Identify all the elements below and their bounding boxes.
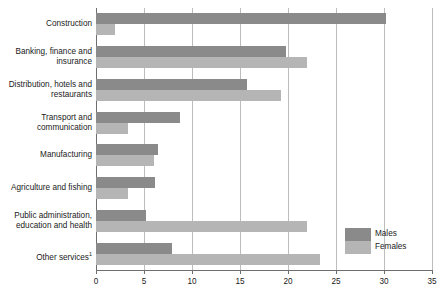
x-axis-line [96, 270, 433, 271]
gridline [432, 8, 433, 270]
category-label: Other services1 [0, 249, 92, 263]
category-label-line: communication [0, 123, 92, 133]
bar-chart: 05101520253035 ConstructionBanking, fina… [0, 0, 441, 297]
footnote-marker: 1 [89, 251, 92, 257]
category-label-line: insurance [0, 57, 92, 67]
x-tick-mark [288, 270, 289, 274]
bar-males [96, 144, 158, 155]
category-label: Distribution, hotels andrestaurants [0, 80, 92, 100]
x-tick-label: 10 [187, 277, 196, 286]
x-tick-label: 20 [283, 277, 292, 286]
legend-label-females: Females [375, 242, 406, 251]
category-label: Public administration,education and heal… [0, 211, 92, 231]
x-tick-mark [384, 270, 385, 274]
x-tick-label: 35 [427, 277, 436, 286]
bar-females [96, 221, 307, 232]
legend-label-males: Males [375, 229, 397, 238]
bar-males [96, 177, 155, 188]
category-label-line: Transport and [0, 113, 92, 123]
x-tick-mark [432, 270, 433, 274]
bar-males [96, 112, 180, 123]
x-tick-mark [240, 270, 241, 274]
x-tick-mark [144, 270, 145, 274]
x-tick-label: 5 [142, 277, 147, 286]
bar-females [96, 254, 320, 265]
bar-females [96, 188, 128, 199]
bar-females [96, 123, 128, 134]
bar-males [96, 79, 247, 90]
x-tick-label: 15 [235, 277, 244, 286]
category-label-line: Agriculture and fishing [0, 183, 92, 193]
bar-males [96, 13, 386, 24]
category-label: Manufacturing [0, 150, 92, 160]
x-tick-mark [96, 270, 97, 274]
bar-males [96, 46, 286, 57]
x-tick-mark [336, 270, 337, 274]
category-label-line: Public administration, [0, 211, 92, 221]
legend-swatch-females-icon [345, 241, 371, 254]
x-tick-mark [192, 270, 193, 274]
category-label: Construction [0, 19, 92, 29]
category-label-line: Distribution, hotels and [0, 80, 92, 90]
category-label: Transport andcommunication [0, 113, 92, 133]
bar-females [96, 90, 281, 101]
x-tick-label: 0 [94, 277, 99, 286]
gridline [336, 8, 337, 270]
category-label: Agriculture and fishing [0, 183, 92, 193]
bar-females [96, 24, 115, 35]
bar-females [96, 155, 154, 166]
category-label-line: restaurants [0, 90, 92, 100]
category-label-line: Other services1 [0, 249, 92, 263]
category-label-line: education and health [0, 221, 92, 231]
x-tick-label: 25 [331, 277, 340, 286]
bar-females [96, 57, 307, 68]
category-label-line: Construction [0, 19, 92, 29]
legend-swatch-males-icon [345, 228, 371, 241]
bar-males [96, 210, 146, 221]
category-label: Banking, finance andinsurance [0, 47, 92, 67]
bar-males [96, 243, 172, 254]
category-label-line: Banking, finance and [0, 47, 92, 57]
category-label-line: Manufacturing [0, 150, 92, 160]
x-tick-label: 30 [379, 277, 388, 286]
